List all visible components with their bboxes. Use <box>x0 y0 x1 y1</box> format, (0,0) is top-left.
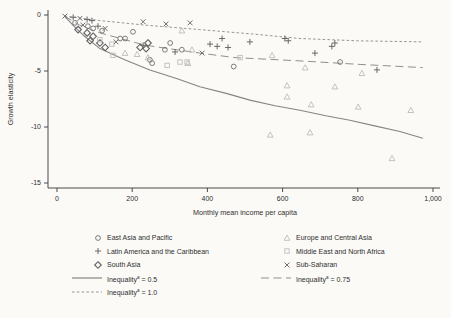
y-tick-label: -15 <box>31 179 41 186</box>
square-marker <box>165 63 169 67</box>
trend-line-longdash <box>65 16 423 68</box>
plus-marker <box>374 67 380 73</box>
triangle-marker <box>284 94 290 99</box>
legend-item: Inequalitya = 0.75 <box>258 272 448 286</box>
diamond-marker <box>84 30 91 37</box>
line-solid-legend-icon <box>69 273 103 283</box>
legend-column-right: Europe and Central AsiaMiddle East and N… <box>258 231 448 285</box>
triangle-marker <box>302 65 308 70</box>
y-tick-label: -5 <box>35 67 41 74</box>
line-shortdash-legend-icon <box>69 287 103 297</box>
plus-marker <box>219 36 225 42</box>
scatter-series <box>62 14 204 56</box>
circle-marker <box>131 29 136 34</box>
legend-item: South Asia <box>69 258 257 272</box>
legend-item: Inequalitya = 1.0 <box>69 285 257 299</box>
circle-marker <box>231 64 236 69</box>
square-legend-icon <box>258 246 292 256</box>
x-tick-label: 200 <box>126 195 138 202</box>
plus-legend-icon <box>69 246 103 256</box>
triangle-marker <box>332 84 338 89</box>
plus-marker <box>214 43 220 49</box>
x-legend-icon <box>258 260 292 270</box>
trend-line-solid <box>65 16 423 138</box>
diamond-legend-icon <box>69 260 103 270</box>
y-tick-label: -10 <box>31 123 41 130</box>
legend-label: Inequalitya = 1.0 <box>107 286 157 297</box>
legend-item: Inequalitya = 0.5 <box>69 272 257 286</box>
legend-label: Inequalitya = 0.75 <box>296 273 350 284</box>
circle-marker <box>168 41 173 46</box>
triangle-marker <box>269 52 275 57</box>
plus-marker <box>312 50 318 56</box>
plus-marker <box>84 16 90 22</box>
triangle-marker <box>284 235 290 240</box>
triangle-marker <box>359 70 365 75</box>
triangle-marker <box>134 51 140 56</box>
triangle-marker <box>307 130 313 135</box>
growth-elasticity-figure: 0-5-10-1502004006008001,000 Growth elast… <box>0 0 451 318</box>
x-marker <box>78 16 83 21</box>
scatter-series <box>70 14 380 73</box>
scatter-series <box>98 37 243 67</box>
triangle-marker <box>308 102 314 107</box>
scatter-series <box>73 20 343 68</box>
legend-item: Europe and Central Asia <box>258 231 448 245</box>
legend-label: Latin America and the Caribbean <box>107 247 209 256</box>
triangle-marker <box>267 132 273 137</box>
legend-label: East Asia and Pacific <box>107 233 172 242</box>
y-tick-label: 0 <box>37 11 41 18</box>
legend-item: Latin America and the Caribbean <box>69 245 257 259</box>
triangle-marker <box>189 47 195 52</box>
triangle-marker <box>284 83 290 88</box>
x-marker <box>188 20 193 25</box>
y-axis-title: Growth elasticity <box>6 72 15 125</box>
legend-label: South Asia <box>107 260 140 269</box>
circle-marker <box>96 235 101 240</box>
x-marker <box>285 262 290 267</box>
diamond-marker <box>95 261 102 268</box>
plus-marker <box>89 18 95 24</box>
x-tick-label: 0 <box>55 195 59 202</box>
triangle-legend-icon <box>258 233 292 243</box>
circle-marker <box>100 28 105 33</box>
triangle-marker <box>408 107 414 112</box>
legend-label: Europe and Central Asia <box>296 233 372 242</box>
circle-legend-icon <box>69 233 103 243</box>
legend-item: Middle East and North Africa <box>258 245 448 259</box>
line-longdash-legend-icon <box>258 273 292 283</box>
legend-label: Inequalitya = 0.5 <box>107 273 157 284</box>
plus-marker <box>70 14 76 20</box>
plus-marker <box>207 41 213 47</box>
square-marker <box>110 42 114 46</box>
square-marker <box>285 249 289 253</box>
x-tick-label: 800 <box>352 195 364 202</box>
plus-marker <box>247 39 253 45</box>
circle-marker <box>118 36 123 41</box>
chart-plot: 0-5-10-1502004006008001,000 Growth elast… <box>0 0 451 226</box>
legend-item: East Asia and Pacific <box>69 231 257 245</box>
legend-column-left: East Asia and PacificLatin America and t… <box>69 231 257 299</box>
plus-marker <box>95 248 101 254</box>
x-marker <box>164 22 169 27</box>
x-marker <box>141 19 146 24</box>
plus-marker <box>329 43 335 49</box>
plus-marker <box>332 40 338 46</box>
circle-marker <box>179 47 184 52</box>
legend-item: Sub-Saharan <box>258 258 448 272</box>
x-tick-label: 600 <box>277 195 289 202</box>
x-tick-label: 1,000 <box>424 195 442 202</box>
plus-marker <box>225 44 231 50</box>
x-marker <box>81 23 86 28</box>
triangle-marker <box>122 50 128 55</box>
x-tick-label: 400 <box>202 195 214 202</box>
legend-label: Middle East and North Africa <box>296 247 385 256</box>
legend-label: Sub-Saharan <box>296 260 337 269</box>
series-lines <box>65 16 423 138</box>
square-marker <box>178 60 182 64</box>
triangle-marker <box>355 104 361 109</box>
triangle-marker <box>389 155 395 160</box>
x-axis-title: Monthly mean income per capita <box>193 208 297 217</box>
series-markers <box>62 14 413 161</box>
scatter-series <box>75 26 152 52</box>
